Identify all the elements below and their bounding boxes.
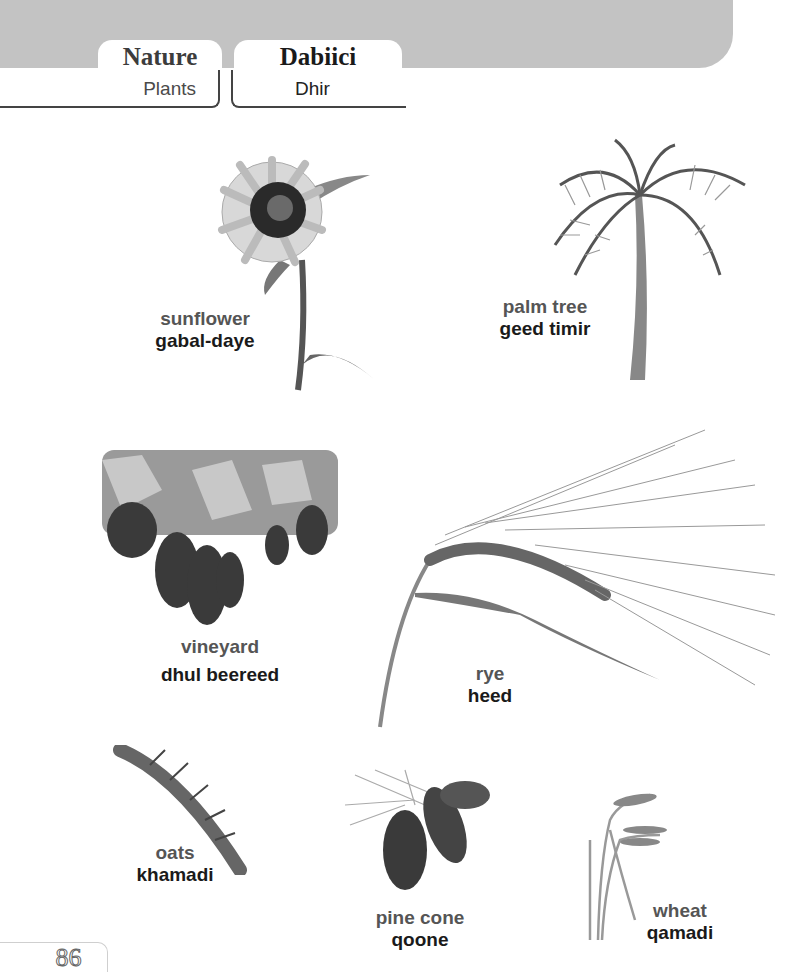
subtitle-english: Plants (0, 70, 220, 108)
vineyard-image (102, 450, 338, 625)
pine-cone-image (345, 765, 505, 895)
title-english: Nature (98, 40, 222, 70)
rye-image (375, 415, 786, 730)
label-pine-cone: pine cone qoone (360, 907, 480, 951)
page-number: 86 (0, 942, 108, 972)
label-oats: oats khamadi (120, 842, 230, 886)
title-somali: Dabiici (234, 40, 402, 70)
palm-tree-image (545, 135, 750, 385)
subtitle-somali: Dhir (231, 70, 406, 108)
label-rye: rye heed (440, 663, 540, 707)
label-palm-tree: palm tree geed timir (480, 296, 610, 340)
label-wheat: wheat qamadi (625, 900, 735, 944)
sunflower-image (210, 150, 380, 395)
label-sunflower: sunflower gabal-daye (130, 308, 280, 352)
label-vineyard: vineyard dhul beereed (120, 636, 320, 686)
